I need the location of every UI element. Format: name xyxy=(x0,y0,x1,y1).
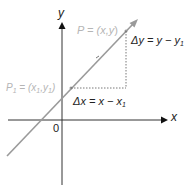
delta-y-label: Δy = y − y1 xyxy=(131,34,184,47)
delta-x-main: Δx = x − x xyxy=(73,95,122,107)
origin-label: 0 xyxy=(53,122,59,134)
y-axis-arrow-icon xyxy=(59,22,66,29)
x-axis-arrow-icon xyxy=(161,117,168,124)
point-p-label-suffix: ) xyxy=(114,24,118,36)
line-tick-mark xyxy=(96,56,99,58)
point-p-label: P = (x,y) xyxy=(77,24,118,36)
p1-comma: ,y xyxy=(40,82,48,93)
p1-mid: = (x xyxy=(17,82,37,93)
slope-diagram: y x 0 P = (x,y) P1 = (x1,y1) Δy = y − y1… xyxy=(0,0,184,185)
p1-end: ) xyxy=(52,82,55,93)
delta-y-sub: 1 xyxy=(180,40,184,47)
point-p-label-prefix: P = ( xyxy=(77,24,100,36)
point-p1-label: P1 = (x1,y1) xyxy=(6,82,55,94)
p1-name: P xyxy=(6,82,13,93)
point-p-label-vars: x,y xyxy=(100,24,114,36)
delta-y-main: Δy = y − y xyxy=(131,34,180,46)
x-axis-label: x xyxy=(171,110,177,124)
delta-x-sub: 1 xyxy=(122,101,126,108)
delta-x-label: Δx = x − x1 xyxy=(73,95,126,108)
y-axis-label: y xyxy=(58,6,64,20)
